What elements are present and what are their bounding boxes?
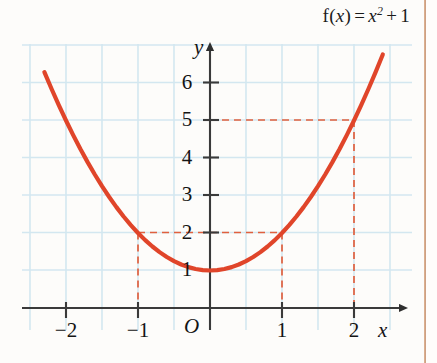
y-tick-label-5: 5: [176, 107, 198, 132]
x-tick-label-2: 2: [340, 318, 368, 343]
origin-label: O: [184, 314, 199, 339]
y-tick-label-3: 3: [176, 182, 198, 207]
y-tick-label-6: 6: [176, 70, 198, 95]
y-tick-label-4: 4: [176, 145, 198, 170]
x-tick-label-minus1: −1: [120, 318, 156, 343]
figure-page: f(x)=x2+1: [0, 0, 437, 363]
y-axis-label: y: [194, 35, 203, 60]
y-tick-label-2: 2: [176, 220, 198, 245]
parabola-plot: [0, 0, 437, 363]
parabola-curve: [44, 55, 382, 271]
x-axis-label: x: [378, 318, 387, 343]
y-tick-label-1: 1: [176, 257, 198, 282]
x-tick-label-minus2: −2: [48, 318, 84, 343]
x-tick-label-1: 1: [268, 318, 296, 343]
